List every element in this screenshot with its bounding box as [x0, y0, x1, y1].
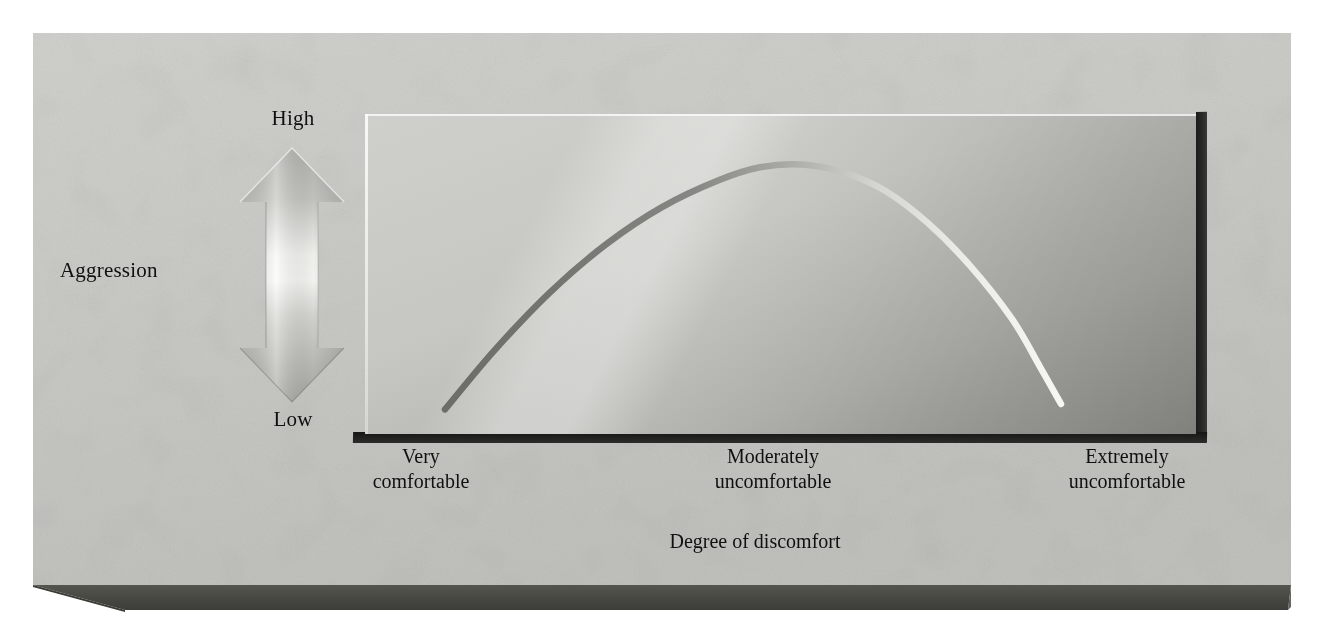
- x-axis-tick-label-3: Extremely uncomfortable: [1002, 444, 1252, 494]
- y-axis-title: Aggression: [60, 258, 235, 283]
- figure-canvas: High Low Aggression: [0, 0, 1321, 642]
- slab-bottom-edge: [33, 585, 1291, 610]
- x-axis-tick-label-2: Moderately uncomfortable: [648, 444, 898, 494]
- x-axis-title: Degree of discomfort: [575, 530, 935, 553]
- aggression-curve: [365, 114, 1196, 434]
- chart-panel: [365, 114, 1196, 434]
- x-axis-tick-label-1: Very comfortable: [336, 444, 506, 494]
- y-axis-high-label: High: [233, 106, 353, 131]
- y-axis-low-label: Low: [233, 407, 353, 432]
- panel-right-shadow: [1196, 112, 1207, 442]
- double-arrow-vertical-icon: [236, 146, 348, 404]
